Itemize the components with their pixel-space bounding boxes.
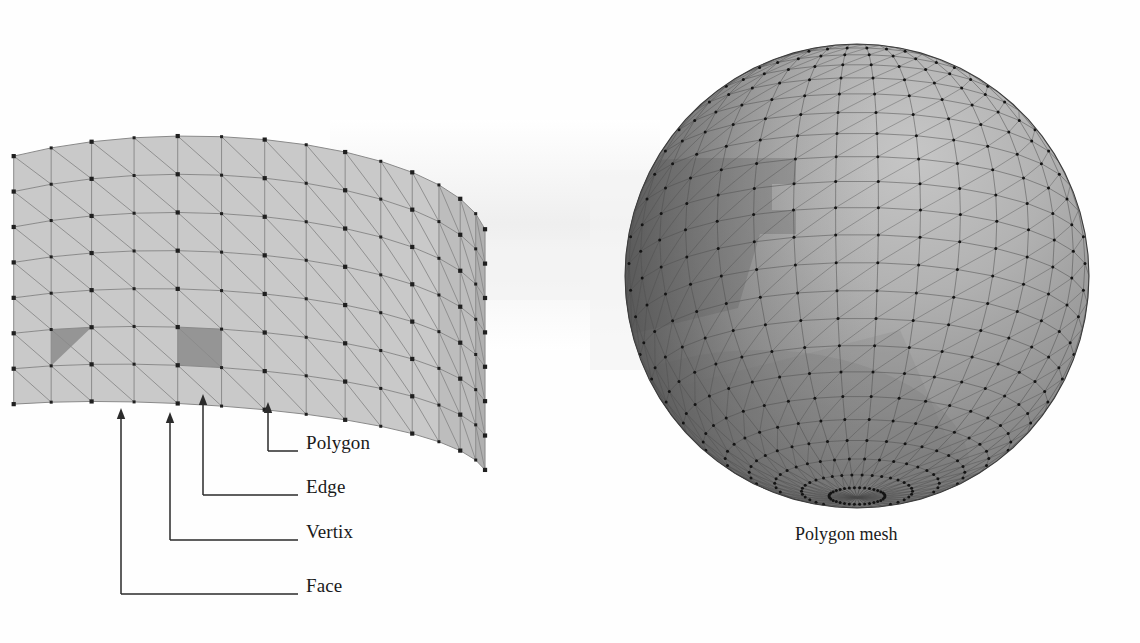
sphere-vertex bbox=[876, 489, 879, 492]
patch-vertex bbox=[133, 400, 136, 403]
sphere-vertex bbox=[872, 370, 875, 373]
sphere-vertex bbox=[885, 440, 888, 443]
sphere-vertex bbox=[797, 422, 800, 425]
sphere-vertex bbox=[877, 233, 880, 236]
patch-vertex bbox=[379, 198, 382, 201]
sphere-vertex bbox=[877, 206, 880, 209]
patch-vertex bbox=[263, 215, 267, 219]
patch-vertex bbox=[305, 143, 308, 146]
sphere-vertex bbox=[1082, 289, 1085, 292]
sphere-vertex bbox=[733, 443, 736, 446]
sphere-vertex bbox=[732, 329, 735, 332]
patch-vertex bbox=[483, 227, 487, 231]
sphere-vertex bbox=[991, 274, 994, 277]
sphere-vertex bbox=[838, 92, 841, 95]
patch-vertex bbox=[379, 387, 382, 390]
sphere-vertex bbox=[796, 291, 799, 294]
sphere-vertex bbox=[653, 173, 656, 176]
patch-vertex bbox=[133, 325, 136, 328]
sphere-vertex bbox=[959, 213, 962, 216]
sphere-vertex bbox=[870, 63, 873, 66]
sphere-vertex bbox=[1026, 412, 1029, 415]
patch-vertex bbox=[176, 325, 180, 329]
patch-vertex bbox=[220, 328, 223, 331]
sphere-vertex bbox=[865, 439, 868, 442]
mesh-patch bbox=[12, 134, 488, 472]
sphere-vertex bbox=[848, 458, 851, 461]
sphere-vertex bbox=[773, 482, 776, 485]
patch-vertex bbox=[50, 255, 53, 258]
sphere-vertex bbox=[997, 362, 1000, 365]
patch-vertex bbox=[263, 369, 267, 373]
sphere-vertex bbox=[953, 431, 956, 434]
sphere-vertex bbox=[885, 48, 888, 51]
sphere-vertex bbox=[801, 487, 804, 490]
sphere-vertex bbox=[671, 319, 674, 322]
sphere-vertex bbox=[941, 98, 944, 101]
sphere-vertex bbox=[892, 460, 895, 463]
sphere-vertex bbox=[725, 417, 728, 420]
patch-vertex bbox=[176, 210, 180, 214]
sphere-vertex bbox=[813, 397, 816, 400]
sphere-vertex bbox=[850, 473, 853, 476]
patch-vertex bbox=[89, 251, 93, 255]
sphere-vertex bbox=[947, 454, 950, 457]
patch-vertex bbox=[263, 176, 267, 180]
sphere-vertex bbox=[915, 134, 918, 137]
patch-vertex bbox=[437, 293, 440, 296]
sphere-vertex bbox=[897, 479, 900, 482]
sphere-vertex bbox=[796, 134, 799, 137]
sphere-vertex bbox=[1034, 380, 1037, 383]
patch-vertex bbox=[410, 320, 414, 324]
patch-vertex bbox=[410, 245, 414, 249]
sphere-vertex bbox=[1017, 403, 1020, 406]
patch-vertex bbox=[12, 296, 16, 300]
sphere-vertex bbox=[752, 213, 755, 216]
patch-vertex bbox=[437, 440, 440, 443]
sphere-vertex bbox=[776, 61, 779, 64]
sphere-vertex bbox=[947, 323, 950, 326]
patch-vertex bbox=[483, 433, 487, 437]
sphere-vertex bbox=[1053, 238, 1056, 241]
patch-vertex bbox=[89, 177, 93, 181]
sphere-vertex bbox=[779, 473, 782, 476]
sphere-vertex bbox=[748, 471, 751, 474]
sphere-vertex bbox=[1058, 330, 1061, 333]
sphere-vertex bbox=[834, 180, 837, 183]
sphere-vertex bbox=[903, 78, 906, 81]
sphere-vertex bbox=[936, 477, 939, 480]
sphere-vertex bbox=[678, 380, 681, 383]
sphere-vertex bbox=[664, 150, 667, 153]
patch-vertex bbox=[410, 282, 414, 286]
sphere-vertex bbox=[664, 293, 667, 296]
sphere-vertex bbox=[915, 291, 918, 294]
sphere-vertex bbox=[997, 111, 1000, 114]
sphere-vertex bbox=[846, 439, 849, 442]
sphere-vertex bbox=[956, 268, 959, 271]
patch-vertex bbox=[379, 425, 382, 428]
sphere-vertex bbox=[919, 236, 922, 239]
sphere-vertex bbox=[750, 465, 753, 468]
sphere-vertex bbox=[1047, 293, 1050, 296]
sphere-vertex bbox=[629, 289, 632, 292]
sphere-vertex bbox=[646, 197, 649, 200]
patch-vertex bbox=[305, 259, 308, 262]
sphere-vertex bbox=[1029, 422, 1032, 425]
sphere-vertex bbox=[778, 376, 781, 379]
sphere-vertex bbox=[693, 371, 696, 374]
sphere-vertex bbox=[925, 469, 928, 472]
sphere-vertex bbox=[695, 153, 698, 156]
patch-vertex bbox=[133, 212, 136, 215]
sphere-vertex bbox=[905, 462, 908, 465]
sphere-vertex bbox=[875, 111, 878, 114]
patch-vertex bbox=[437, 367, 440, 370]
sphere-vertex bbox=[897, 501, 900, 504]
sphere-vertex bbox=[708, 101, 711, 104]
sphere-vertex bbox=[835, 155, 838, 158]
sphere-vertex bbox=[807, 50, 810, 53]
sphere-vertex bbox=[725, 145, 728, 148]
sphere-vertex bbox=[794, 264, 797, 267]
sphere-vertex bbox=[628, 262, 631, 265]
sphere-vertex bbox=[740, 104, 743, 107]
sphere-vertex bbox=[1030, 346, 1033, 349]
